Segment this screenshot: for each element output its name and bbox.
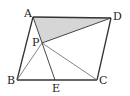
label-a: A: [23, 7, 33, 20]
shaded-triangle-apd: [33, 17, 111, 43]
label-b: B: [7, 74, 15, 87]
label-e: E: [52, 82, 60, 95]
segment-dc: [97, 18, 111, 80]
segment-ba: [17, 17, 33, 80]
label-c: C: [99, 74, 107, 87]
label-p: P: [32, 36, 40, 49]
label-d: D: [113, 10, 122, 23]
geometry-diagram: A D P B E C: [0, 0, 130, 96]
segment-pc: [42, 43, 97, 80]
